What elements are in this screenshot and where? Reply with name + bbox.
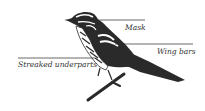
label-wing-bars: Wing bars — [157, 47, 196, 56]
label-streaked-underparts: Streaked underparts — [18, 60, 97, 69]
bird-diagram: Mask Wing bars Streaked underparts — [0, 0, 205, 111]
label-mask: Mask — [125, 23, 146, 32]
